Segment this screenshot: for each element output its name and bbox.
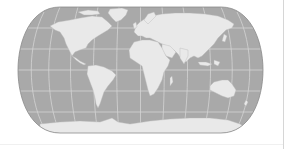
frame-right-border bbox=[283, 0, 284, 149]
frame-bottom-border bbox=[0, 144, 283, 145]
world-map bbox=[0, 0, 285, 149]
world-map-svg bbox=[0, 0, 285, 149]
